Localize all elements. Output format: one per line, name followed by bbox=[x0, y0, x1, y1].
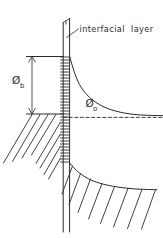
figure-container: interfacial layer Ø b Ø o bbox=[0, 0, 163, 238]
band-diagram-svg: interfacial layer Ø b Ø o bbox=[0, 0, 163, 238]
surface-potential-symbol: Ø o bbox=[86, 97, 98, 113]
barrier-height-symbol: Ø b bbox=[12, 74, 25, 90]
valence-band-edge-curve bbox=[70, 163, 157, 190]
interfacial-layer-strip bbox=[63, 19, 69, 233]
interfacial-layer-callout: interfacial layer bbox=[67, 24, 154, 38]
interfacial-layer-label: interfacial layer bbox=[80, 24, 154, 34]
metal-region-hatching bbox=[4, 115, 61, 179]
potential-decay-curve bbox=[70, 57, 163, 116]
semiconductor-region-hatching bbox=[62, 166, 156, 229]
phi-o-subscript: o bbox=[93, 105, 97, 113]
callout-leader-line bbox=[67, 29, 79, 38]
barrier-height-arrow bbox=[29, 56, 35, 114]
layer-ladder-hatching bbox=[61, 57, 69, 162]
phi-b-subscript: b bbox=[20, 82, 25, 90]
